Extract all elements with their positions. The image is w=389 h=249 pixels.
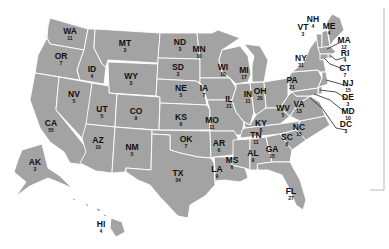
electoral-votes-mt: 3 (124, 47, 127, 53)
electoral-votes-dc: 3 (345, 128, 348, 134)
electoral-votes-az: 10 (95, 144, 101, 150)
electoral-votes-ok: 7 (185, 143, 188, 149)
electoral-votes-id: 4 (91, 73, 94, 79)
electoral-votes-nm: 5 (131, 151, 134, 157)
electoral-votes-ny: 31 (298, 62, 304, 68)
electoral-votes-ar: 6 (218, 147, 221, 153)
electoral-votes-ia: 7 (203, 92, 206, 98)
frame-line (370, 8, 384, 190)
state-mt[interactable] (94, 29, 160, 67)
electoral-votes-il: 21 (226, 103, 232, 109)
state-ct[interactable] (320, 54, 328, 60)
electoral-votes-ks: 6 (180, 121, 183, 127)
electoral-votes-va: 13 (296, 108, 302, 114)
electoral-votes-ut: 5 (101, 113, 104, 119)
electoral-votes-wv: 5 (282, 112, 285, 118)
electoral-votes-mi: 17 (241, 74, 247, 80)
electoral-votes-hi: 4 (100, 228, 103, 234)
electoral-votes-vt: 3 (302, 31, 305, 37)
electoral-votes-ca: 55 (48, 127, 54, 133)
electoral-votes-ak: 3 (34, 166, 37, 172)
state-hi[interactable] (72, 198, 125, 237)
electoral-votes-tn: 11 (253, 139, 259, 145)
electoral-votes-mo: 11 (209, 124, 215, 130)
electoral-votes-wy: 3 (130, 80, 133, 86)
electoral-votes-pa: 21 (289, 84, 295, 90)
us-electoral-map: WA11OR7CA55ID4NV5MT3WY3UT5AZ10CO9NM5ND3S… (0, 0, 389, 249)
electoral-votes-sc: 8 (286, 141, 289, 147)
state-fl[interactable] (257, 162, 306, 210)
state-ma[interactable] (318, 46, 336, 54)
electoral-votes-mn: 10 (196, 53, 202, 59)
electoral-votes-wa: 11 (67, 35, 73, 41)
electoral-votes-nd: 3 (179, 46, 182, 52)
electoral-votes-ga: 15 (269, 153, 275, 159)
electoral-votes-la: 9 (216, 173, 219, 179)
electoral-votes-al: 9 (252, 157, 255, 163)
electoral-votes-in: 11 (245, 98, 251, 104)
electoral-votes-or: 7 (60, 60, 63, 66)
electoral-votes-ms: 6 (231, 164, 234, 170)
electoral-votes-sd: 3 (177, 71, 180, 77)
electoral-votes-co: 9 (135, 115, 138, 121)
electoral-votes-wi: 10 (220, 71, 226, 77)
electoral-votes-nc: 15 (296, 131, 302, 137)
electoral-votes-oh: 20 (257, 95, 263, 101)
electoral-votes-ne: 5 (180, 92, 183, 98)
electoral-votes-fl: 27 (288, 195, 294, 201)
electoral-votes-nh: 4 (312, 23, 315, 29)
electoral-votes-tx: 34 (175, 177, 181, 183)
electoral-votes-nv: 5 (73, 98, 76, 104)
electoral-votes-me: 4 (328, 30, 331, 36)
